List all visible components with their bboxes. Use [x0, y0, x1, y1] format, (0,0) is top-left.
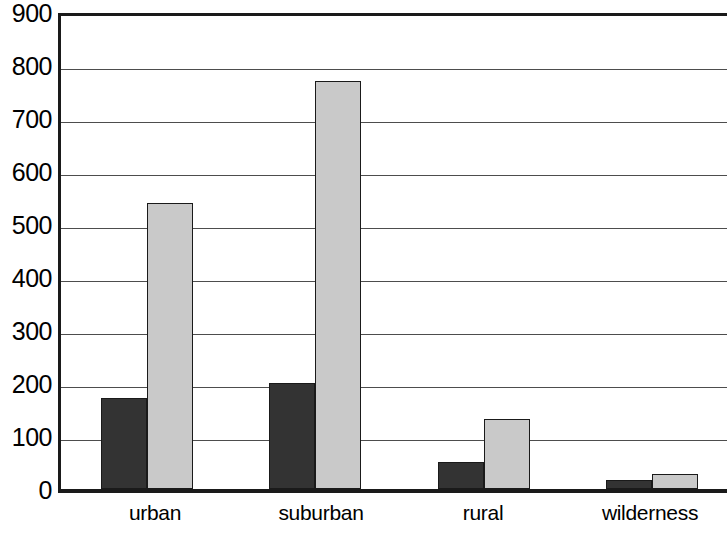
x-tick-label-urban: urban: [105, 500, 205, 525]
bar-chart-screenshot: 900 800 700 600 500 400 300 200 100 0 ur…: [0, 0, 727, 535]
y-tick-label-800: 800: [0, 54, 52, 79]
x-tick-label-suburban: suburban: [256, 500, 386, 525]
bar-urban-series-a: [101, 398, 147, 489]
y-tick-label-700: 700: [0, 107, 52, 132]
bar-urban-series-b: [147, 203, 193, 489]
bar-suburban-series-b: [315, 81, 361, 489]
y-tick-label-300: 300: [0, 319, 52, 344]
y-axis-tick-labels: 900 800 700 600 500 400 300 200 100 0: [0, 0, 52, 535]
bar-wilderness-series-b: [652, 474, 698, 489]
bar-suburban-series-a: [269, 383, 315, 489]
x-axis-tick-labels: urban suburban rural wilderness: [58, 500, 727, 535]
y-tick-label-100: 100: [0, 425, 52, 450]
y-tick-label-900: 900: [0, 1, 52, 26]
bar-wilderness-series-a: [606, 480, 652, 489]
plot-area: [58, 13, 727, 493]
bar-rural-series-b: [484, 419, 530, 489]
y-tick-label-0: 0: [0, 478, 52, 503]
y-tick-label-400: 400: [0, 266, 52, 291]
bar-rural-series-a: [438, 462, 484, 489]
x-tick-label-rural: rural: [428, 500, 538, 525]
y-tick-label-500: 500: [0, 213, 52, 238]
x-tick-label-wilderness: wilderness: [580, 500, 720, 525]
y-tick-label-600: 600: [0, 160, 52, 185]
bars-layer: [61, 16, 727, 489]
y-tick-label-200: 200: [0, 372, 52, 397]
